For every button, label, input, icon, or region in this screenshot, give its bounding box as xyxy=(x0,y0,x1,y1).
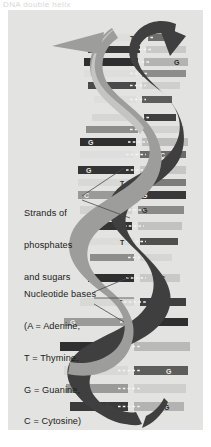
dna-double-helix-figure: DNA double helix T xyxy=(0,0,211,447)
label-line: phosphates xyxy=(24,240,73,251)
label-line: C = Cytosine) xyxy=(24,416,96,427)
ribbon-tip-top xyxy=(52,32,104,54)
figure-top-caption: DNA double helix xyxy=(3,0,153,9)
base-pair-rung xyxy=(90,254,172,261)
base-pair-rung: C xyxy=(88,274,180,282)
label-line: T = Thymine, xyxy=(24,353,96,364)
illustration-panel: T G xyxy=(8,10,203,430)
svg-text:G: G xyxy=(166,368,172,375)
label-line: (A = Adenine, xyxy=(24,321,96,332)
svg-text:G: G xyxy=(88,139,94,146)
label-line: G = Guanine, xyxy=(24,385,96,396)
label-line: Nucleotide bases xyxy=(24,289,96,300)
nucleotide-bases-legend-label: Nucleotide bases (A = Adenine, T = Thymi… xyxy=(24,268,96,430)
svg-text:G: G xyxy=(142,207,148,214)
svg-text:G: G xyxy=(86,167,92,174)
svg-text:G: G xyxy=(174,59,180,66)
svg-text:T: T xyxy=(120,239,125,246)
label-line: Strands of xyxy=(24,208,73,219)
